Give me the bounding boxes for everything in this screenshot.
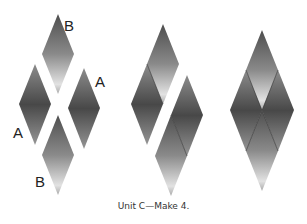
step2-joined-halves (131, 24, 203, 196)
figure-caption: Unit C—Make 4. (0, 201, 307, 211)
label-b-bottom: B (35, 173, 45, 190)
piece-a-left (19, 64, 51, 145)
piece-b-bottom (42, 115, 74, 195)
step3-completed-unit (230, 30, 294, 191)
label-a-left: A (13, 124, 23, 141)
step1-separated-pieces: B A A B (13, 14, 105, 195)
label-a-right: A (95, 73, 105, 90)
unit-c-assembly-diagram: B A A B (0, 0, 307, 224)
label-b-top: B (64, 17, 74, 34)
